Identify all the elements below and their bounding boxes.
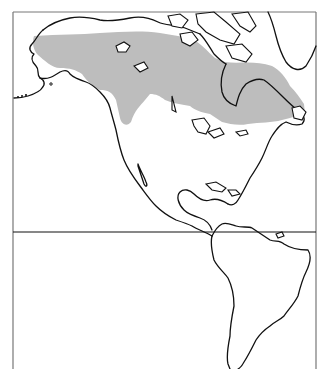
species-range-area bbox=[33, 31, 305, 124]
caribbean-islands bbox=[206, 182, 284, 238]
aleutian-islands bbox=[17, 83, 52, 98]
baja-california bbox=[138, 164, 147, 186]
range-map bbox=[0, 0, 329, 369]
greenland-coastline bbox=[268, 12, 316, 69]
